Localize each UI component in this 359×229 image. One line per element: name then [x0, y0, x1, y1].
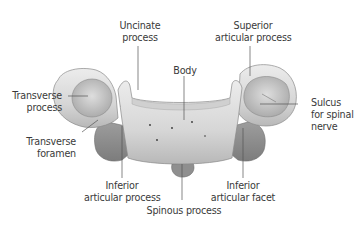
- label-line: Transverse: [4, 90, 62, 102]
- transverse-process-left: [53, 68, 123, 127]
- label-line: Inferior: [84, 180, 160, 192]
- label-line: process: [4, 102, 62, 114]
- transverse-process-right: [238, 65, 296, 126]
- label-line: for spinal: [311, 109, 359, 121]
- vertebra-illustration: [0, 0, 359, 229]
- label-uncinate-process: Uncinate process: [116, 20, 164, 44]
- label-line: Inferior: [208, 180, 278, 192]
- label-line: Uncinate: [116, 20, 164, 32]
- label-spinous-process: Spinous process: [144, 205, 224, 217]
- label-line: nerve: [311, 121, 359, 133]
- label-superior-articular-process: Superior articular process: [215, 20, 291, 44]
- label-line: articular process: [84, 192, 160, 204]
- label-sulcus-for-spinal-nerve: Sulcus for spinal nerve: [311, 97, 359, 133]
- vertebral-body: [118, 81, 242, 164]
- label-line: Sulcus: [311, 97, 359, 109]
- label-inferior-articular-process: Inferior articular process: [84, 180, 160, 204]
- label-transverse-foramen: Transverse foramen: [10, 136, 76, 160]
- label-inferior-articular-facet: Inferior articular facet: [208, 180, 278, 204]
- label-line: foramen: [10, 148, 76, 160]
- label-line: Spinous process: [144, 205, 224, 217]
- label-line: articular facet: [208, 192, 278, 204]
- label-line: Superior: [215, 20, 291, 32]
- label-transverse-process: Transverse process: [4, 90, 62, 114]
- label-body: Body: [170, 65, 200, 77]
- spinous-process-shape: [172, 163, 194, 177]
- label-line: process: [116, 32, 164, 44]
- label-line: Body: [170, 65, 200, 77]
- label-line: Transverse: [10, 136, 76, 148]
- label-line: articular process: [215, 32, 291, 44]
- anatomy-figure: Uncinate process Superior articular proc…: [0, 0, 359, 229]
